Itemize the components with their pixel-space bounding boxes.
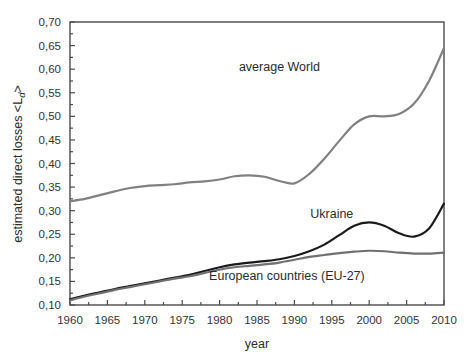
y-tick-label: 0,65 [39, 40, 61, 52]
x-tick-label: 2005 [394, 314, 420, 326]
y-tick-label: 0,45 [39, 134, 61, 146]
y-tick-label: 0,35 [39, 181, 61, 193]
line-chart: 0,100,150,200,250,300,350,400,450,500,55… [0, 0, 473, 359]
y-tick-label: 0,70 [39, 16, 61, 28]
x-tick-label: 1990 [282, 314, 308, 326]
series-annotations: average WorldUkraineEuropean countries (… [209, 60, 365, 283]
y-tick-label: 0,25 [39, 228, 61, 240]
series-paths [70, 48, 444, 300]
x-tick-label: 1965 [95, 314, 121, 326]
x-tick-label: 2000 [356, 314, 382, 326]
y-tick-label: 0,15 [39, 275, 61, 287]
y-tick-label: 0,55 [39, 87, 61, 99]
x-tick-label: 1995 [319, 314, 345, 326]
y-tick-label: 0,10 [39, 299, 61, 311]
series-label-ukraine: Ukraine [310, 207, 353, 221]
x-axis-ticks: 1960196519701975198019851990199520002005… [57, 300, 457, 326]
x-tick-label: 1970 [132, 314, 158, 326]
series-label-european-countries-eu-27: European countries (EU-27) [209, 269, 365, 283]
y-tick-label: 0,30 [39, 205, 61, 217]
svg-text:estimated direct losses <Ld>: estimated direct losses <Ld> [11, 85, 27, 243]
y-tick-label: 0,40 [39, 158, 61, 170]
x-tick-label: 1985 [244, 314, 270, 326]
x-axis-title: year [245, 337, 269, 351]
x-tick-label: 2010 [431, 314, 457, 326]
series-label-average-world: average World [239, 60, 320, 74]
x-tick-label: 1975 [169, 314, 195, 326]
y-tick-label: 0,20 [39, 252, 61, 264]
y-axis-title: estimated direct losses <Ld> [11, 85, 27, 243]
chart-page: 0,100,150,200,250,300,350,400,450,500,55… [0, 0, 473, 359]
x-tick-label: 1980 [207, 314, 233, 326]
x-tick-label: 1960 [57, 314, 83, 326]
y-tick-label: 0,50 [39, 110, 61, 122]
y-axis-title-text: estimated direct losses [11, 116, 25, 243]
y-tick-label: 0,60 [39, 63, 61, 75]
